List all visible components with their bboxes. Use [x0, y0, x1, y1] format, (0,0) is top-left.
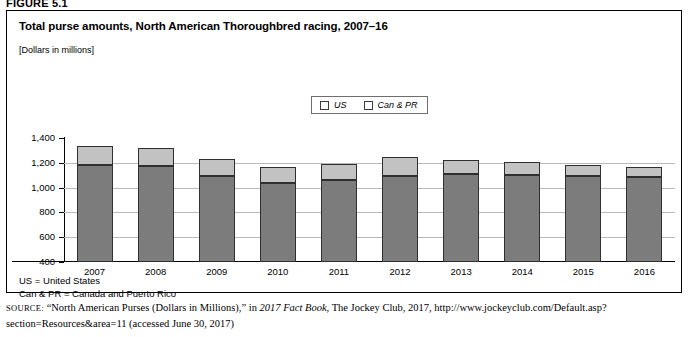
bar-2014[interactable]	[504, 162, 540, 262]
y-axis-tick-label: 1,000	[31, 182, 55, 193]
x-axis-tick-label: 2010	[248, 266, 308, 277]
bar-2010[interactable]	[260, 167, 296, 262]
legend-swatch-us	[320, 101, 329, 110]
source-note: SOURCE: “North American Purses (Dollars …	[6, 300, 682, 331]
footnote-us: US = United States	[19, 275, 100, 286]
figure-units-subtitle: [Dollars in millions]	[19, 45, 94, 55]
legend-item-can-pr: Can & PR	[364, 100, 418, 110]
bar-2008[interactable]	[138, 148, 174, 262]
x-axis-tick-label: 2014	[492, 266, 552, 277]
bar-segment-can-pr[interactable]	[77, 146, 113, 165]
y-axis-tick-label: 600	[39, 231, 55, 242]
y-axis-tick-label: 800	[39, 206, 55, 217]
bar-segment-can-pr[interactable]	[382, 157, 418, 176]
bar-segment-us[interactable]	[321, 180, 357, 262]
source-italic-title: 2017 Fact Book	[260, 302, 327, 313]
bar-segment-us[interactable]	[382, 176, 418, 262]
bar-2013[interactable]	[443, 160, 479, 262]
bar-segment-can-pr[interactable]	[443, 160, 479, 174]
y-axis-tick-label: 1,200	[31, 157, 55, 168]
x-axis-tick-label: 2012	[370, 266, 430, 277]
legend-label-can-pr: Can & PR	[378, 100, 418, 110]
figure-panel: Total purse amounts, North American Thor…	[6, 10, 682, 293]
bar-2007[interactable]	[77, 146, 113, 262]
bar-2012[interactable]	[382, 157, 418, 262]
legend-swatch-can-pr	[364, 101, 373, 110]
x-axis-tick-label: 2013	[431, 266, 491, 277]
source-label: SOURCE:	[6, 303, 44, 313]
x-axis-tick-label: 2015	[553, 266, 613, 277]
bar-segment-us[interactable]	[77, 165, 113, 262]
footnote-can-pr: Can & PR = Canada and Puerto Rico	[19, 288, 176, 299]
legend-item-us: US	[320, 100, 347, 110]
bar-segment-can-pr[interactable]	[565, 165, 601, 177]
x-axis-tick-label: 2011	[309, 266, 369, 277]
source-text-1: “North American Purses (Dollars in Milli…	[44, 302, 260, 313]
bar-segment-can-pr[interactable]	[626, 167, 662, 177]
chart-legend: US Can & PR	[311, 96, 428, 114]
chart-plot-area	[64, 138, 675, 262]
legend-label-us: US	[334, 100, 347, 110]
x-axis-tick-label: 2008	[126, 266, 186, 277]
y-axis-tick-mark	[59, 262, 64, 263]
page-title: Total purse amounts, North American Thor…	[19, 20, 388, 32]
bar-segment-us[interactable]	[138, 166, 174, 262]
x-axis-tick-label: 2009	[187, 266, 247, 277]
bar-segment-can-pr[interactable]	[504, 162, 540, 175]
bar-2011[interactable]	[321, 164, 357, 262]
y-axis-tick-label: 400	[39, 256, 55, 267]
bar-segment-can-pr[interactable]	[260, 167, 296, 183]
bar-segment-us[interactable]	[199, 176, 235, 262]
bar-segment-us[interactable]	[260, 183, 296, 262]
bar-2015[interactable]	[565, 165, 601, 262]
bar-2016[interactable]	[626, 167, 662, 262]
bar-segment-can-pr[interactable]	[321, 164, 357, 179]
y-axis-tick-label: 1,400	[31, 132, 55, 143]
bar-segment-can-pr[interactable]	[138, 148, 174, 166]
bar-segment-us[interactable]	[504, 175, 540, 262]
bar-segment-us[interactable]	[443, 174, 479, 262]
bar-segment-us[interactable]	[626, 177, 662, 262]
bar-2009[interactable]	[199, 159, 235, 262]
bar-segment-us[interactable]	[565, 176, 601, 262]
x-axis-tick-label: 2016	[614, 266, 674, 277]
figure-label: FIGURE 5.1	[6, 0, 68, 9]
bar-segment-can-pr[interactable]	[199, 159, 235, 177]
